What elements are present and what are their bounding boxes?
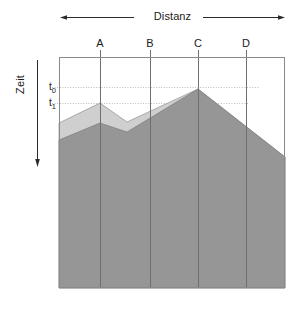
zeit-arrow: [35, 60, 40, 167]
distanz-zeit-diagram: Distanz Zeit A B C D t0 t1: [0, 0, 301, 316]
y-axis-label: Zeit: [14, 55, 27, 115]
plot-canvas: [0, 0, 301, 316]
x-axis-label: Distanz: [143, 10, 203, 23]
